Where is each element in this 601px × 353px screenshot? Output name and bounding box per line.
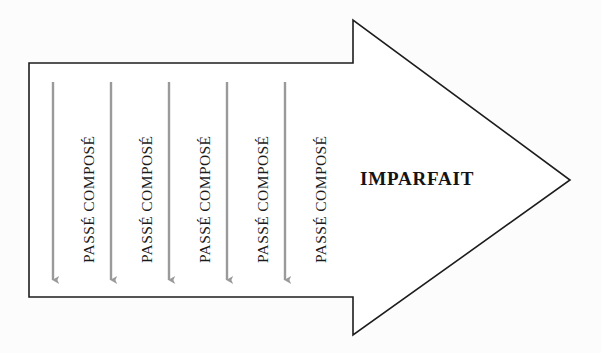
- column-label-1[interactable]: PASSÉ COMPOSÉ: [80, 136, 98, 263]
- column-label-5[interactable]: PASSÉ COMPOSÉ: [312, 136, 330, 263]
- column-label-4[interactable]: PASSÉ COMPOSÉ: [254, 136, 272, 263]
- diagram-canvas: PASSÉ COMPOSÉ PASSÉ COMPOSÉ PASSÉ COMPOS…: [0, 0, 601, 353]
- column-label-2[interactable]: PASSÉ COMPOSÉ: [138, 136, 156, 263]
- column-label-3[interactable]: PASSÉ COMPOSÉ: [196, 136, 214, 263]
- imparfait-label[interactable]: IMPARFAIT: [360, 168, 474, 190]
